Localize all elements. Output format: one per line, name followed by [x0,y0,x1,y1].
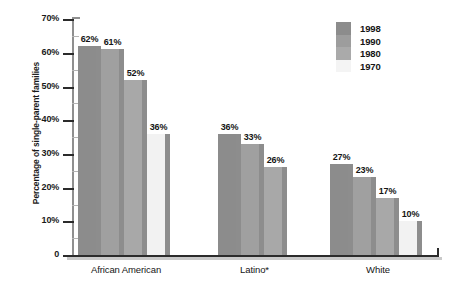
category-label-white: White [330,264,426,275]
bar-latino-1990[interactable]: 33% [241,144,264,255]
bar-value-label: 36% [150,122,167,132]
bar-value-label: 10% [402,209,419,219]
y-tick-50 [63,87,74,89]
x-axis-baseline-shadow [67,257,442,260]
legend-label: 1998 [360,23,381,34]
legend-swatch-icon [336,60,351,73]
bar-value-label: 62% [81,34,98,44]
x-axis-baseline [64,255,439,257]
y-tick-0 [63,255,74,257]
category-label-african-american: African American [78,264,174,275]
y-tick-label-50: 50% [13,81,59,91]
legend-label: 1980 [360,48,381,59]
y-tick-label-30: 30% [13,148,59,158]
bar-african-american-1970[interactable]: 36% [147,134,170,255]
bar-value-label: 23% [356,165,373,175]
y-tick-60 [63,53,74,55]
bar-value-label: 17% [379,186,396,196]
bar-african-american-1990[interactable]: 61% [101,49,124,255]
y-tick-30 [63,154,74,156]
y-tick-label-10: 10% [13,215,59,225]
bar-white-1990[interactable]: 23% [353,177,376,255]
bar-value-label: 36% [221,122,238,132]
bar-chart: Percentage of single-parent families 70%… [0,0,459,304]
bar-value-label: 61% [104,37,121,47]
bar-white-1998[interactable]: 27% [330,164,353,255]
bar-latino-1980[interactable]: 26% [264,167,287,255]
bar-value-label: 52% [127,68,144,78]
bar-latino-1998[interactable]: 36% [218,134,241,255]
bar-value-label: 26% [267,155,284,165]
x-axis-end-tick [437,248,439,256]
y-tick-label-0: 0 [13,249,59,259]
y-tick-20 [63,188,74,190]
bar-african-american-1980[interactable]: 52% [124,80,147,255]
legend-swatch-icon [336,35,351,48]
y-tick-40 [63,120,74,122]
y-tick-10 [63,221,74,223]
bar-value-label: 27% [333,152,350,162]
bar-african-american-1998[interactable]: 62% [78,46,101,255]
y-tick-label-60: 60% [13,47,59,57]
y-tick-70 [63,19,74,21]
bar-value-label: 33% [244,132,261,142]
bar-white-1980[interactable]: 17% [376,198,399,255]
y-tick-label-40: 40% [13,114,59,124]
bar-white-1970[interactable]: 10% [399,221,422,255]
y-tick-label-20: 20% [13,182,59,192]
legend-swatch-icon [336,47,351,60]
legend-label: 1970 [360,61,381,72]
category-label-latino: Latino* [218,264,291,275]
legend-swatch-icon [336,22,351,35]
legend-label: 1990 [360,36,381,47]
y-tick-label-70: 70% [13,13,59,23]
